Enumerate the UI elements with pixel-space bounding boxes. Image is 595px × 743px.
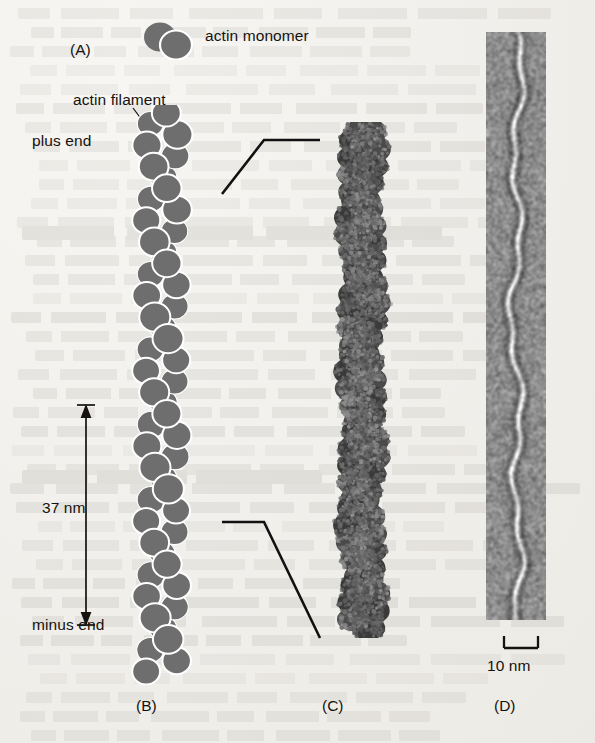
actin-filament-figure: (A) actin monomer actin filament plus en… [0, 0, 595, 743]
molecular-model-panel [320, 122, 410, 638]
panel-connector-top [216, 118, 336, 198]
micrograph-scale-label: 10 nm [487, 658, 531, 674]
panel-connector-bottom [216, 498, 336, 648]
panel-label-d: (D) [494, 698, 516, 714]
actin-filament-schematic [100, 105, 235, 685]
plus-end-label: plus end [32, 133, 91, 149]
panel-label-c: (C) [322, 698, 344, 714]
panel-label-b: (B) [136, 698, 157, 714]
panel-label-a: (A) [70, 42, 91, 58]
electron-micrograph-panel [486, 32, 546, 620]
actin-monomer-icon [136, 18, 206, 64]
actin-monomer-label: actin monomer [205, 28, 309, 44]
ten-nm-scale-bar [494, 632, 554, 654]
